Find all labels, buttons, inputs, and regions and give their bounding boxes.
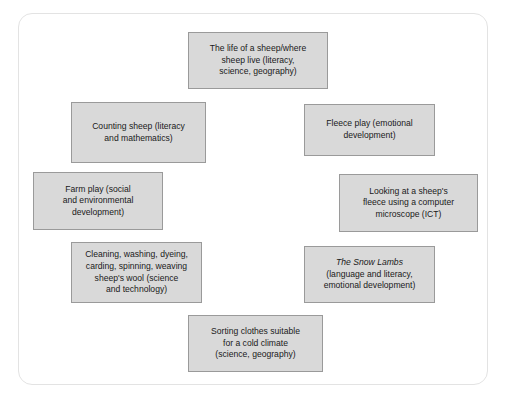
node-life-of-a-sheep: The life of a sheep/where sheep live (li… <box>188 32 328 89</box>
node-line: (science, geography) <box>193 349 318 361</box>
node-farm-play: Farm play (social and environmental deve… <box>33 172 163 230</box>
node-line: emotional development) <box>309 280 430 292</box>
node-line: development) <box>309 130 430 142</box>
node-line: (language and literacy, <box>309 269 430 281</box>
node-line: Sorting clothes suitable <box>193 326 318 338</box>
node-line: and technology) <box>76 284 197 296</box>
node-sorting-clothes: Sorting clothes suitable for a cold clim… <box>188 315 323 372</box>
node-line-title: The Snow Lambs <box>309 257 430 269</box>
figure-caption <box>20 392 250 400</box>
node-line: sheep's wool (science <box>76 273 197 285</box>
node-line: fleece using a computer <box>344 197 473 209</box>
node-line: sheep live (literacy, <box>193 55 323 67</box>
node-line: Cleaning, washing, dyeing, <box>76 249 197 261</box>
node-line: for a cold climate <box>193 338 318 350</box>
node-line: and mathematics) <box>76 133 201 145</box>
node-fleece-play: Fleece play (emotional development) <box>304 104 435 156</box>
node-line: Counting sheep (literacy <box>76 121 201 133</box>
node-counting-sheep: Counting sheep (literacy and mathematics… <box>71 102 206 163</box>
node-line: carding, spinning, weaving <box>76 261 197 273</box>
node-line: microscope (ICT) <box>344 209 473 221</box>
node-line: Looking at a sheep's <box>344 186 473 198</box>
node-line: science, geography) <box>193 66 323 78</box>
node-line: Farm play (social <box>38 184 158 196</box>
node-line: development) <box>38 207 158 219</box>
node-line: The life of a sheep/where <box>193 43 323 55</box>
node-the-snow-lambs: The Snow Lambs (language and literacy, e… <box>304 246 435 303</box>
node-computer-microscope: Looking at a sheep's fleece using a comp… <box>339 174 478 232</box>
diagram-panel: The life of a sheep/where sheep live (li… <box>18 13 488 385</box>
node-wool-processing: Cleaning, washing, dyeing, carding, spin… <box>71 242 202 303</box>
node-line: and environmental <box>38 195 158 207</box>
node-line: Fleece play (emotional <box>309 118 430 130</box>
